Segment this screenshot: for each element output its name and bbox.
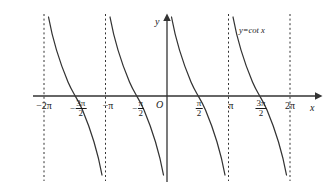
tick-label-3pi-over-2: 3π2 [255,99,266,119]
plot-canvas [0,0,329,192]
fraction-denominator: 2 [138,109,145,118]
fraction: 3π2 [255,99,266,119]
tick-label-neg-3pi-over-2: −3π2 [70,99,87,119]
tick-label-pi: π [228,101,233,111]
function-label: y=cot x [239,26,265,35]
fraction: π2 [138,99,145,119]
tick-label-neg-pi: −π [103,101,114,111]
fraction-denominator: 2 [196,109,203,118]
fraction-denominator: 2 [255,109,266,118]
cotangent-graph-figure: −2π −3π2 −π −π2 O π2 π 3π2 2π x y y=cot … [0,0,329,192]
fraction: π2 [196,99,203,119]
fraction-denominator: 2 [75,109,86,118]
x-axis-label: x [310,103,314,113]
tick-label-pi-over-2: π2 [196,99,203,119]
tick-label-neg-pi-over-2: −π2 [132,99,144,119]
tick-label-2pi: 2π [285,101,295,111]
y-axis-label: y [155,17,159,27]
fraction: 3π2 [75,99,86,119]
tick-label-neg-2pi: −2π [36,101,52,111]
origin-label: O [156,100,163,110]
